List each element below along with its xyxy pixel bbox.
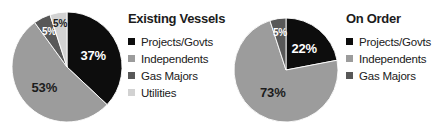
- legend-swatch-icon: [346, 72, 353, 79]
- pie-slice-label: 73%: [260, 85, 286, 100]
- legend-swatch-icon: [128, 89, 135, 96]
- legend-swatch-icon: [128, 38, 135, 45]
- legend-item[interactable]: Projects/Govts: [128, 33, 225, 50]
- legend-item[interactable]: Independents: [346, 50, 431, 67]
- figure-canvas: 37%53%5%5% Existing Vessels Projects/Gov…: [0, 0, 444, 132]
- legend-item-label: Independents: [141, 53, 208, 65]
- legend-rows: Projects/GovtsIndependentsGas MajorsUtil…: [128, 33, 225, 101]
- legend-rows: Projects/GovtsIndependentsGas Majors: [346, 33, 431, 84]
- chart-title-existing-vessels: Existing Vessels: [128, 12, 225, 26]
- pie-svg-on-order: 22%73%5%: [222, 0, 352, 132]
- legend-swatch-icon: [128, 55, 135, 62]
- pie-slice-label: 22%: [291, 41, 317, 56]
- chart-panel-on-order: 22%73%5% On Order Projects/GovtsIndepend…: [222, 0, 444, 132]
- legend-swatch-icon: [346, 55, 353, 62]
- legend-item[interactable]: Gas Majors: [346, 67, 431, 84]
- legend-item[interactable]: Gas Majors: [128, 67, 225, 84]
- legend-item[interactable]: Utilities: [128, 84, 225, 101]
- legend-item[interactable]: Independents: [128, 50, 225, 67]
- chart-title-on-order: On Order: [346, 12, 431, 26]
- legend-item-label: Gas Majors: [359, 70, 416, 82]
- legend-swatch-icon: [128, 72, 135, 79]
- pie-slice-label: 37%: [80, 48, 106, 63]
- pie-chart-on-order: 22%73%5%: [222, 0, 352, 132]
- pie-svg-existing-vessels: 37%53%5%5%: [0, 0, 140, 132]
- legend-item-label: Utilities: [141, 87, 176, 99]
- pie-slice-label: 5%: [273, 27, 287, 38]
- pie-slice-label: 5%: [53, 18, 67, 29]
- legend-item-label: Gas Majors: [141, 70, 198, 82]
- chart-panel-existing-vessels: 37%53%5%5% Existing Vessels Projects/Gov…: [0, 0, 222, 132]
- pie-chart-existing-vessels: 37%53%5%5%: [0, 0, 140, 132]
- legend-item-label: Projects/Govts: [359, 36, 431, 48]
- pie-slice-label: 53%: [32, 80, 58, 95]
- legend-existing-vessels: Existing Vessels Projects/GovtsIndepende…: [128, 12, 225, 101]
- legend-on-order: On Order Projects/GovtsIndependentsGas M…: [346, 12, 431, 84]
- legend-item-label: Independents: [359, 53, 426, 65]
- legend-item[interactable]: Projects/Govts: [346, 33, 431, 50]
- legend-swatch-icon: [346, 38, 353, 45]
- legend-item-label: Projects/Govts: [141, 36, 213, 48]
